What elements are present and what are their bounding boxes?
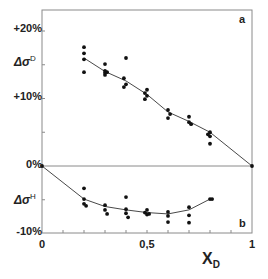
panel-label-a: a	[239, 13, 245, 25]
data-point-panel-b	[210, 197, 214, 201]
data-point-panel-b	[82, 186, 86, 190]
data-point-panel-b	[126, 215, 130, 219]
data-point-panel-b	[103, 208, 107, 212]
data-point-panel-a	[145, 88, 149, 92]
y-axis-label-delta-sigma-d: ΔσD	[14, 54, 36, 69]
fit-lines	[42, 58, 252, 214]
ylabel-d-main: Δσ	[14, 55, 30, 69]
data-points	[40, 45, 254, 224]
x-tick-0-5: 0,5	[132, 238, 162, 250]
data-point-panel-b	[145, 208, 149, 212]
data-point-panel-b	[124, 195, 128, 199]
y-tick-minus10: -10%	[4, 225, 42, 237]
data-point-panel-a	[168, 112, 172, 116]
data-point-panel-b	[166, 220, 170, 224]
data-point-panel-b	[105, 212, 109, 216]
data-point-panel-b	[166, 210, 170, 214]
data-point-panel-a	[82, 51, 86, 55]
x-tick-1: 1	[237, 238, 267, 250]
data-point-panel-b	[187, 221, 191, 225]
ylabel-h-main: Δσ	[14, 193, 30, 207]
y-tick-zero: 0%	[4, 158, 42, 170]
ylabel-d-sup: D	[30, 54, 36, 63]
data-point-panel-b	[145, 213, 149, 217]
data-point-panel-a	[208, 142, 212, 146]
data-point-panel-b	[187, 213, 191, 217]
data-point-panel-a	[124, 56, 128, 60]
y-axis-label-delta-sigma-h: ΔσH	[14, 192, 36, 207]
data-point-panel-a	[208, 134, 212, 138]
data-point-panel-a	[143, 97, 147, 101]
xlabel-sub: D	[213, 259, 220, 270]
data-point-panel-b	[124, 207, 128, 211]
y-tick-plus20: +20%	[4, 22, 42, 34]
data-point-panel-a	[250, 164, 254, 168]
data-point-panel-b	[82, 197, 86, 201]
data-point-panel-a	[103, 62, 107, 66]
data-point-panel-b	[166, 214, 170, 218]
data-point-panel-a	[82, 57, 86, 61]
xlabel-main: X	[202, 250, 213, 267]
data-point-panel-b	[187, 205, 191, 209]
data-point-panel-a	[122, 76, 126, 80]
data-point-panel-a	[82, 70, 86, 74]
x-axis-label: XD	[202, 250, 220, 270]
data-point-panel-a	[145, 94, 149, 98]
data-point-panel-b	[124, 211, 128, 215]
x-tick-0: 0	[27, 238, 57, 250]
data-point-panel-a	[166, 116, 170, 120]
fit-line-panel-a	[84, 58, 252, 166]
y-tick-plus10: +10%	[4, 90, 42, 102]
panel-label-b: b	[239, 217, 246, 229]
ylabel-h-sup: H	[30, 192, 36, 201]
data-point-panel-b	[84, 204, 88, 208]
data-point-panel-a	[189, 122, 193, 126]
data-point-panel-b	[103, 203, 107, 207]
plot-border	[42, 10, 252, 233]
data-point-panel-a	[122, 85, 126, 89]
fit-line-panel-b	[42, 166, 210, 214]
data-point-panel-a	[166, 108, 170, 112]
plot-frame	[42, 10, 252, 233]
data-point-panel-a	[187, 115, 191, 119]
data-point-panel-a	[82, 45, 86, 49]
data-point-panel-a	[105, 70, 109, 74]
